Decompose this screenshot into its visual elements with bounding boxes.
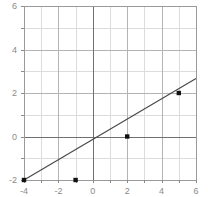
x-tick-label: -2 — [54, 186, 62, 196]
data-point-marker-2 — [125, 134, 129, 138]
line-chart-svg: -4-20246 -20246 — [0, 0, 208, 197]
y-tick-label: 6 — [12, 1, 17, 11]
x-tick-label: 4 — [159, 186, 164, 196]
x-tick-label: 0 — [90, 186, 95, 196]
x-tick-label: 2 — [125, 186, 130, 196]
x-tick-label: 6 — [193, 186, 198, 196]
y-tick-label: 4 — [12, 45, 17, 55]
chart-container: -4-20246 -20246 — [0, 0, 208, 197]
y-tick-label: 0 — [12, 132, 17, 142]
y-tick-label: -2 — [9, 175, 17, 185]
data-point-marker-3 — [177, 91, 181, 95]
data-point-marker-0 — [22, 178, 26, 182]
x-tick-label: -4 — [20, 186, 28, 196]
y-tick-label: 2 — [12, 88, 17, 98]
data-point-marker-1 — [73, 178, 77, 182]
